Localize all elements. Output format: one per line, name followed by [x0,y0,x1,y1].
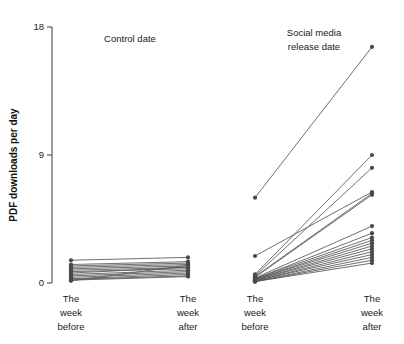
x-label-social-after-line1: The [364,293,380,304]
social-line [255,155,372,274]
x-label-control-before-line3: before [58,321,85,332]
y-tick-label-0: 0 [39,277,44,288]
x-label-social-before-line1: The [247,293,263,304]
social-point-before [253,254,257,258]
social-point-before [253,279,257,283]
panel-title-control: Control date [104,33,156,44]
x-labels-control: The week before The week after [58,293,200,332]
control-panel-series [69,255,190,283]
social-panel-series [253,45,374,284]
control-point-after [186,255,190,259]
x-label-control-before-line2: week [59,307,82,318]
panel-title-social-line1: Social media [287,27,342,38]
control-point-after [186,275,190,279]
x-label-control-after-line2: week [176,307,199,318]
social-point-after [370,261,374,265]
y-tick-label-18: 18 [33,21,44,32]
social-point-before [253,196,257,200]
control-line [71,262,188,265]
social-point-after [370,166,374,170]
y-axis-title: PDF downloads per day [8,108,19,222]
social-line [255,47,372,198]
social-point-after [370,153,374,157]
x-label-social-after-line3: after [362,321,381,332]
x-label-control-before-line1: The [63,293,79,304]
control-line [71,265,188,268]
x-label-control-after-line1: The [180,293,196,304]
panel-title-social-line2: release date [288,41,340,52]
x-labels-social: The week before The week after [242,293,384,332]
x-label-social-before-line2: week [243,307,266,318]
social-point-after [370,45,374,49]
x-label-control-after-line3: after [178,321,197,332]
control-point-before [69,258,73,262]
control-line [71,257,188,260]
control-line [71,263,188,266]
social-point-after [370,231,374,235]
x-label-social-before-line3: before [242,321,269,332]
control-point-after [186,263,190,267]
x-label-social-after-line2: week [360,307,383,318]
control-point-before [69,279,73,283]
social-point-after [370,193,374,197]
social-point-after [370,224,374,228]
social-line [255,226,372,278]
y-tick-label-9: 9 [39,149,44,160]
slopegraph-figure: 18 9 0 PDF downloads per day Control dat… [0,0,404,344]
y-axis: 18 9 0 PDF downloads per day [8,21,52,288]
